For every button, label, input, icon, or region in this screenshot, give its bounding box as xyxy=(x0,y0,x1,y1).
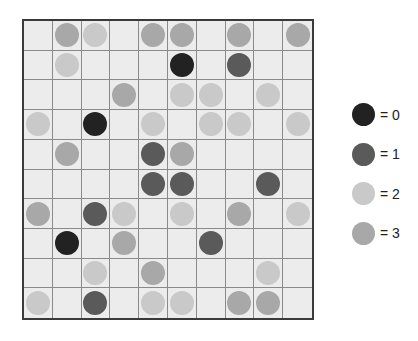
grid-cell xyxy=(283,51,312,81)
circle-icon xyxy=(112,83,136,107)
grid-cell xyxy=(53,229,82,259)
grid-cell xyxy=(139,80,168,110)
grid-cell xyxy=(197,288,226,318)
circle-icon xyxy=(112,202,136,226)
circle-icon xyxy=(83,291,107,315)
circle-icon xyxy=(256,261,280,285)
grid-cell xyxy=(53,110,82,140)
grid-cell xyxy=(283,140,312,170)
circle-icon xyxy=(83,23,107,47)
circle-icon xyxy=(83,261,107,285)
grid-cell xyxy=(110,21,139,51)
grid-cell xyxy=(283,110,312,140)
grid-cell xyxy=(110,140,139,170)
grid-cell xyxy=(254,140,283,170)
grid-cell xyxy=(110,288,139,318)
legend-item: = 2 xyxy=(352,182,400,205)
legend-swatch-icon xyxy=(352,182,375,205)
grid-cell xyxy=(139,229,168,259)
circle-icon xyxy=(286,23,310,47)
circle-icon xyxy=(55,53,79,77)
circle-icon xyxy=(227,202,251,226)
circle-icon xyxy=(199,231,223,255)
grid-cell xyxy=(53,199,82,229)
grid-cell xyxy=(226,140,255,170)
grid-cell xyxy=(254,80,283,110)
grid-cell xyxy=(168,110,197,140)
grid-cell xyxy=(53,288,82,318)
legend-swatch-icon xyxy=(352,143,375,166)
grid-cell xyxy=(82,140,111,170)
grid-cell xyxy=(254,259,283,289)
grid-cell xyxy=(226,170,255,200)
grid-cell xyxy=(110,259,139,289)
legend-label: = 1 xyxy=(380,146,400,162)
grid-cell xyxy=(168,199,197,229)
circle-icon xyxy=(256,83,280,107)
grid-cell xyxy=(226,229,255,259)
grid-cell xyxy=(110,110,139,140)
circle-icon xyxy=(199,83,223,107)
legend-label: = 0 xyxy=(380,107,400,123)
circle-icon xyxy=(170,202,194,226)
grid-cell xyxy=(53,80,82,110)
grid-cell xyxy=(24,259,53,289)
grid-cell xyxy=(110,229,139,259)
legend-item: = 3 xyxy=(352,222,400,245)
grid-cell xyxy=(168,51,197,81)
grid-cell xyxy=(24,199,53,229)
circle-icon xyxy=(227,112,251,136)
circle-icon xyxy=(55,142,79,166)
legend-label: = 2 xyxy=(380,186,400,202)
grid-cell xyxy=(110,170,139,200)
grid-cell xyxy=(24,21,53,51)
circle-icon xyxy=(141,112,165,136)
grid-cell xyxy=(139,140,168,170)
grid-cell xyxy=(110,199,139,229)
circle-icon xyxy=(227,291,251,315)
grid-cell xyxy=(226,288,255,318)
grid-cell xyxy=(283,229,312,259)
circle-icon xyxy=(26,291,50,315)
grid-cell xyxy=(168,170,197,200)
circle-icon xyxy=(55,23,79,47)
grid-cell xyxy=(24,288,53,318)
grid-cell xyxy=(254,229,283,259)
grid-cell xyxy=(226,199,255,229)
legend-label: = 3 xyxy=(380,225,400,241)
grid-cell xyxy=(82,288,111,318)
grid-cell xyxy=(168,80,197,110)
grid-cell xyxy=(283,80,312,110)
grid-cell xyxy=(24,80,53,110)
grid-cell xyxy=(197,80,226,110)
circle-icon xyxy=(55,231,79,255)
grid-cell xyxy=(139,199,168,229)
circle-icon xyxy=(256,291,280,315)
grid-cell xyxy=(226,80,255,110)
grid-cell xyxy=(254,199,283,229)
grid-cell xyxy=(110,80,139,110)
grid-cell xyxy=(254,288,283,318)
grid-cell xyxy=(254,51,283,81)
circle-icon xyxy=(141,142,165,166)
grid-cell xyxy=(53,21,82,51)
circle-icon xyxy=(170,172,194,196)
grid-cell xyxy=(226,110,255,140)
grid-cell xyxy=(139,21,168,51)
grid-cell xyxy=(53,140,82,170)
grid-cell xyxy=(283,199,312,229)
grid-cell xyxy=(283,170,312,200)
grid-cell xyxy=(82,229,111,259)
circle-icon xyxy=(227,23,251,47)
grid-cell xyxy=(139,259,168,289)
circle-icon xyxy=(26,112,50,136)
grid-cell xyxy=(168,288,197,318)
grid-cell xyxy=(139,288,168,318)
grid-cell xyxy=(139,110,168,140)
grid-cell xyxy=(226,259,255,289)
grid-cell xyxy=(139,51,168,81)
grid-cell xyxy=(24,170,53,200)
grid-cell xyxy=(197,170,226,200)
grid-cell xyxy=(283,21,312,51)
grid-cell xyxy=(168,140,197,170)
